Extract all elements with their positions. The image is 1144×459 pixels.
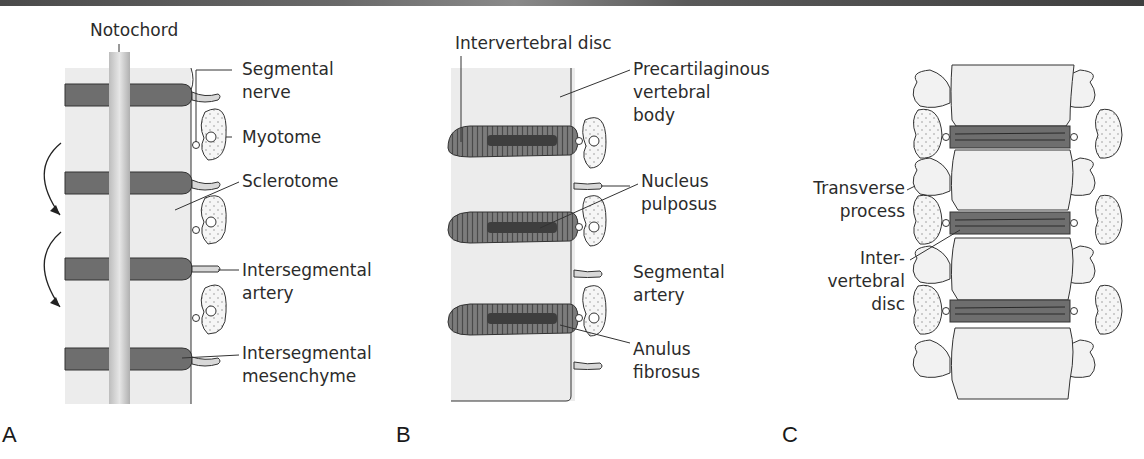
label-nucleus-line1: Nucleus [641,171,709,192]
label-transverse-line1: Transverse [790,178,905,199]
panel-b-drawing [448,56,638,401]
label-anulus-line2: fibrosus [633,362,700,383]
notochord [109,52,130,404]
label-intervertebral-disc: Intervertebral disc [455,33,612,54]
label-intersegmental-artery-line2: artery [242,283,294,304]
label-precartilaginous-line1: Precartilaginous [633,59,770,80]
label-sclerotome: Sclerotome [242,171,338,192]
label-intersegmental-mesenchyme-line2: mesenchyme [242,366,356,387]
vertebral-development-diagram [0,0,1144,459]
panel-letter-b: B [396,422,411,448]
label-precartilaginous-line2: vertebral [633,82,711,103]
panel-letter-a: A [2,422,17,448]
panel-a-drawing [44,44,239,404]
label-segmental-nerve-line1: Segmental [242,59,334,80]
label-inter-disc-line3: disc [790,294,905,315]
label-segmental-nerve-line2: nerve [242,82,291,103]
label-inter-disc-line2: vertebral [790,271,905,292]
label-precartilaginous-line3: body [633,105,675,126]
panel-c-drawing [907,65,1122,399]
label-myotome: Myotome [242,127,321,148]
label-segmental-artery-line1: Segmental [633,262,725,283]
label-anulus-line1: Anulus [633,339,691,360]
label-intersegmental-mesenchyme-line1: Intersegmental [242,343,372,364]
label-notochord: Notochord [90,20,178,41]
label-nucleus-line2: pulposus [641,194,717,215]
panel-letter-c: C [782,422,798,448]
label-transverse-line2: process [790,201,905,222]
label-intersegmental-artery-line1: Intersegmental [242,260,372,281]
label-inter-disc-line1: Inter- [790,248,905,269]
label-segmental-artery-line2: artery [633,285,685,306]
